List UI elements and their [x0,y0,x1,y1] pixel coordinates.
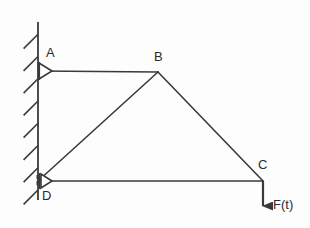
node-label-A: A [46,46,55,59]
roller-support-D-icon [37,173,53,189]
truss-members [38,71,263,181]
wall-hatch-tick [24,123,38,137]
wall-hatch-tick [24,56,38,70]
wall-hatch-tick [24,34,38,48]
wall-hatch-tick [24,79,38,93]
member-AB [38,71,158,72]
wall-hatch-tick [24,145,38,159]
truss-diagram: A B C D F(t) [0,0,310,228]
node-label-D: D [42,189,51,202]
wall-hatching [24,34,38,204]
node-label-C: C [258,158,267,171]
member-BC [158,72,263,181]
node-label-B: B [154,50,163,63]
pin-support-A-icon [39,62,52,80]
wall-hatch-tick [24,101,38,115]
force-label: F(t) [273,198,293,211]
member-BD [38,72,158,181]
wall-hatch-tick [24,190,38,204]
wall-hatch-tick [24,168,38,182]
fixed-wall [24,22,38,204]
